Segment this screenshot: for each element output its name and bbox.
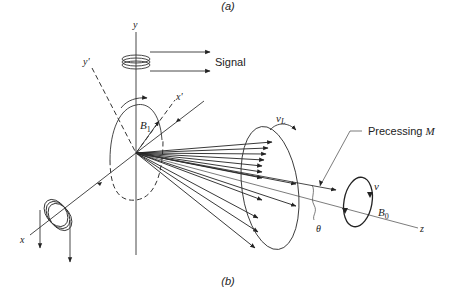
theta-squiggle	[312, 185, 315, 220]
signal-label: Signal	[215, 56, 246, 68]
precessing-m-label: Precessing M	[368, 125, 435, 137]
transmitter-coil-icon	[39, 195, 77, 262]
x-axis-label: x	[19, 234, 25, 245]
nu-arrow-up-icon	[342, 208, 348, 214]
precessing-m-leader	[320, 131, 362, 186]
magnetization-vector	[136, 153, 262, 172]
x-axis	[30, 153, 136, 235]
y-prime-axis	[92, 68, 136, 153]
b1-rotation-arrow-icon	[121, 98, 147, 108]
panel-label-b: (b)	[221, 275, 235, 287]
b1-ellipse-lower	[110, 140, 163, 200]
magnetization-vector	[136, 153, 262, 200]
z-axis-label: z	[419, 223, 424, 234]
nmr-precession-diagram: (a) (b) y y' x' x B1 Signal z	[0, 0, 456, 293]
vl-label: vL	[276, 112, 286, 126]
magnetization-vector-fan	[136, 142, 296, 248]
magnetization-vector	[136, 148, 268, 153]
magnetization-vector	[136, 142, 272, 153]
receiver-coil-icon	[122, 52, 210, 71]
panel-label-a: (a)	[221, 0, 235, 12]
x-prime-axis-label: x'	[175, 91, 183, 102]
nu-precession-circle	[340, 175, 376, 229]
nu-label: v	[374, 180, 379, 192]
magnetization-vector	[136, 153, 255, 248]
theta-label: θ	[316, 223, 321, 234]
y-prime-axis-label: y'	[82, 56, 90, 67]
y-axis-label: y	[132, 19, 138, 30]
magnetization-vector	[136, 153, 258, 218]
b1-label: B1	[140, 119, 151, 134]
